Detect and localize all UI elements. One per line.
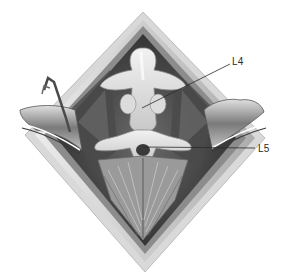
label-l4: L4 (232, 56, 244, 67)
surgical-illustration: L4 L5 (0, 0, 289, 277)
label-l5: L5 (258, 143, 270, 154)
spine-exposure-drawing (0, 0, 289, 277)
